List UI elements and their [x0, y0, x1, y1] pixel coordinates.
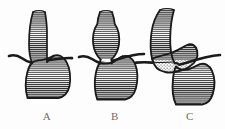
panel-label-c: C	[180, 110, 200, 122]
panel-label-a: A	[37, 110, 57, 122]
medical-figure: A B C	[0, 0, 225, 129]
panel-label-b: B	[105, 110, 125, 122]
